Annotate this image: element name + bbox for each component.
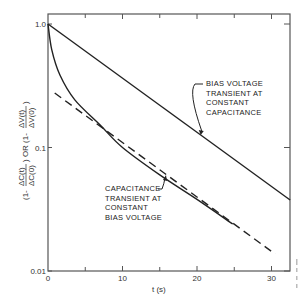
annotation-bias-voltage-line: TRANSIENT AT	[206, 89, 263, 98]
annotation-bias-voltage-line: CAPACITANCE	[206, 108, 262, 117]
annotation-bias-voltage-line: BIAS VOLTAGE	[206, 79, 263, 88]
y-label-den-c: ΔC(0)	[27, 165, 36, 186]
ticks	[48, 14, 290, 271]
annotation-capacitance-line: TRANSIENT AT	[105, 194, 162, 203]
plot-frame	[48, 14, 290, 271]
annotation-capacitance-line: BIAS VOLTAGE	[105, 213, 162, 222]
y-label-or: ) OR (1-	[21, 133, 30, 162]
annotation-capacitance-line: CAPACITANCE	[105, 184, 161, 193]
y-tick-label: 1.0	[35, 20, 47, 29]
chart: 01020301.00.10.01 BIAS VOLTAGETRANSIENT …	[0, 0, 303, 305]
tick-labels: 01020301.00.10.01	[30, 20, 276, 283]
y-label-close: )	[21, 101, 30, 104]
annotation-capacitance-line: CONSTANT	[105, 203, 148, 212]
annotation-bias-leader	[193, 84, 203, 131]
cropped-caption-fragment	[296, 259, 298, 288]
annotation-bias-voltage-line: CONSTANT	[206, 98, 249, 107]
y-label-num-v: ΔV(t)	[17, 109, 26, 128]
y-tick-label: 0.1	[35, 144, 47, 153]
y-tick-label: 0.01	[30, 267, 46, 276]
series-group	[48, 24, 290, 254]
annotations: BIAS VOLTAGETRANSIENT ATCONSTANTCAPACITA…	[105, 79, 263, 222]
y-label-den-v: ΔV(0)	[27, 107, 36, 128]
x-axis-label: t (s)	[152, 285, 166, 294]
y-label-num-c: ΔC(t)	[17, 167, 26, 186]
series-2-line	[55, 93, 276, 254]
x-tick-label: 30	[267, 274, 276, 283]
x-tick-label: 0	[46, 274, 51, 283]
y-label-prefix-c: (1-	[21, 190, 30, 200]
x-tick-label: 10	[118, 274, 127, 283]
x-tick-label: 20	[193, 274, 202, 283]
y-axis-label: (1- ΔC(t) ΔC(0) ) OR (1- ΔV(t) ΔV(0) )	[17, 101, 36, 200]
